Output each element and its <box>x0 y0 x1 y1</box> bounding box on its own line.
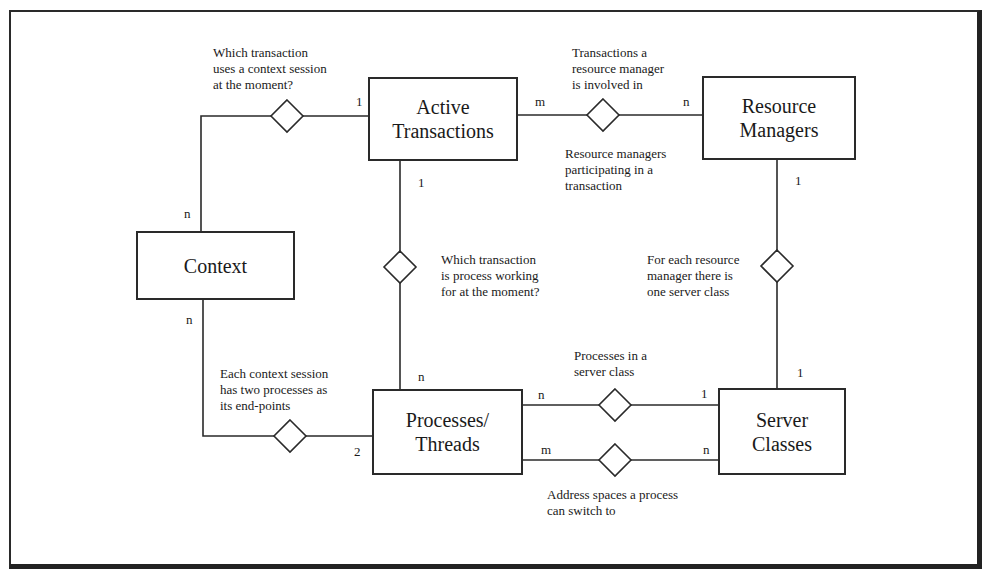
cardinality-pt-right-upper: n <box>538 388 545 402</box>
note-line: Which transaction <box>441 252 540 268</box>
cardinality-rm-bottom: 1 <box>795 174 802 188</box>
entity-label-line2: Threads <box>415 432 479 456</box>
cardinality-rm-left: n <box>683 95 690 109</box>
entity-processes-threads: Processes/ Threads <box>372 389 523 475</box>
note-line: its end-points <box>220 398 328 414</box>
cardinality-context-top: n <box>184 207 191 221</box>
note-line: server class <box>574 364 647 380</box>
note-line: Address spaces a process <box>547 487 678 503</box>
entity-label-line2: Classes <box>752 432 812 456</box>
note-line: Resource managers <box>565 146 666 162</box>
relationship-diamond-processes-in-server-class <box>599 389 631 421</box>
note-line: transaction <box>565 178 666 194</box>
relationship-diamond-address-spaces <box>599 444 631 476</box>
note-line: Which transaction <box>213 45 327 61</box>
cardinality-pt-left: 2 <box>354 445 361 459</box>
note-line: is involved in <box>572 77 664 93</box>
cardinality-sc-left-lower: n <box>703 443 710 457</box>
note-line: for at the moment? <box>441 284 540 300</box>
cardinality-sc-top: 1 <box>797 366 804 380</box>
note-line: Transactions a <box>572 45 664 61</box>
note-line: can switch to <box>547 503 678 519</box>
entity-server-classes: Server Classes <box>718 388 846 475</box>
cardinality-pt-top: n <box>418 370 425 384</box>
note-rms-in-transaction: Resource managers participating in a tra… <box>565 146 666 194</box>
note-context-transaction: Which transaction uses a context session… <box>213 45 327 93</box>
note-rm-server-class: For each resource manager there is one s… <box>647 252 739 300</box>
note-line: manager there is <box>647 268 739 284</box>
entity-context: Context <box>136 231 295 300</box>
cardinality-at-left: 1 <box>356 95 363 109</box>
note-line: Processes in a <box>574 348 647 364</box>
cardinality-pt-right-lower: m <box>541 443 551 457</box>
note-line: is process working <box>441 268 540 284</box>
cardinality-at-bottom: 1 <box>418 176 425 190</box>
relationship-diamond-process-transaction <box>384 251 416 283</box>
entity-resource-managers: Resource Managers <box>702 76 856 160</box>
relationship-diamond-context-processes <box>274 420 306 452</box>
entity-label-line1: Server <box>756 408 808 432</box>
note-line: one server class <box>647 284 739 300</box>
note-line: at the moment? <box>213 77 327 93</box>
note-line: participating in a <box>565 162 666 178</box>
entity-label-line2: Transactions <box>392 119 493 143</box>
note-process-transaction: Which transaction is process working for… <box>441 252 540 300</box>
note-line: uses a context session <box>213 61 327 77</box>
note-line: has two processes as <box>220 382 328 398</box>
entity-label-line1: Resource <box>742 94 816 118</box>
note-address-spaces: Address spaces a process can switch to <box>547 487 678 519</box>
cardinality-sc-left-upper: 1 <box>701 387 708 401</box>
note-line: For each resource <box>647 252 739 268</box>
entity-label-line1: Active <box>416 95 469 119</box>
note-line: Each context session <box>220 366 328 382</box>
entity-label-line2: Managers <box>740 118 819 142</box>
note-transactions-of-rm: Transactions a resource manager is invol… <box>572 45 664 93</box>
relationship-diamond-transaction-rm <box>587 99 619 131</box>
cardinality-at-right: m <box>535 95 545 109</box>
note-processes-in-server-class: Processes in a server class <box>574 348 647 380</box>
entity-label: Context <box>184 254 247 278</box>
entity-active-transactions: Active Transactions <box>368 77 518 161</box>
relationship-diamond-context-transaction <box>271 100 303 132</box>
entity-label-line1: Processes/ <box>406 408 489 432</box>
note-context-processes: Each context session has two processes a… <box>220 366 328 414</box>
relationship-diamond-rm-server-class <box>761 250 793 282</box>
note-line: resource manager <box>572 61 664 77</box>
cardinality-context-bottom: n <box>186 313 193 327</box>
